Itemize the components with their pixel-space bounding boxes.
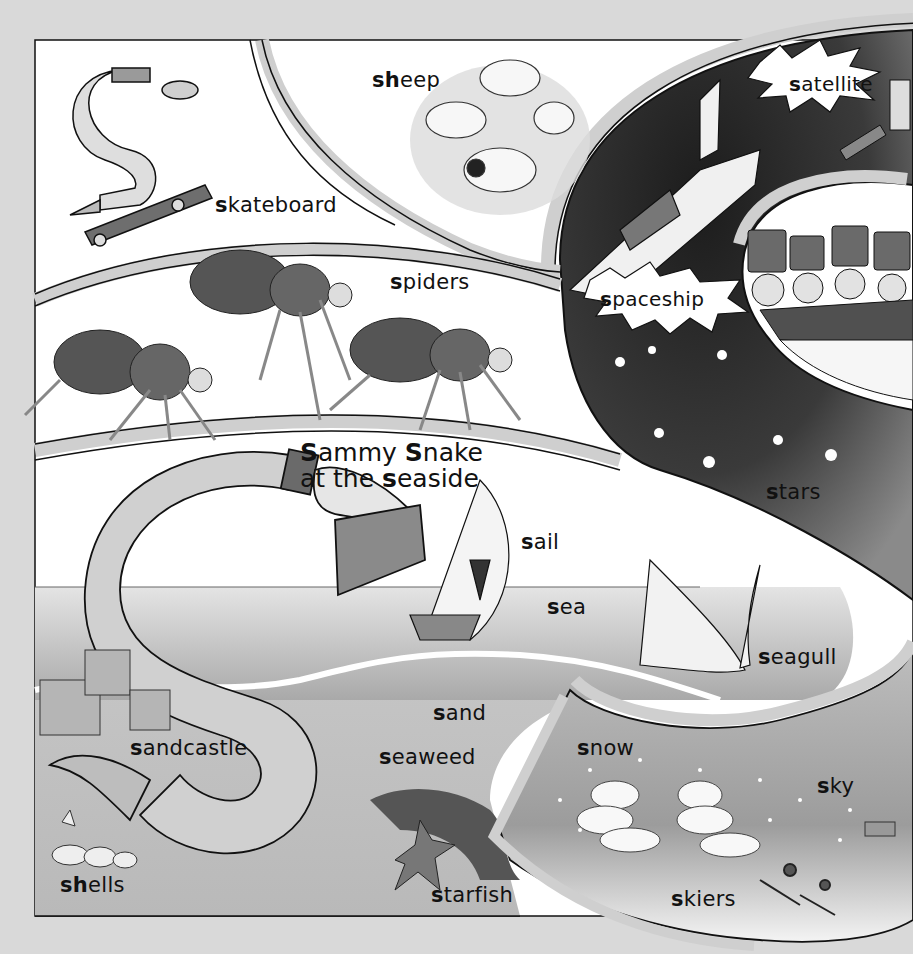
label-stars: stars xyxy=(766,480,821,504)
label-sand: sand xyxy=(433,701,486,725)
label-sheep: sheep xyxy=(372,68,440,92)
label-spaceship: spaceship xyxy=(600,287,704,311)
label-sandcastle: sandcastle xyxy=(130,736,247,760)
title-line-1: Sammy Snake xyxy=(300,440,483,466)
label-seagull: seagull xyxy=(758,645,837,669)
alphabet-page: Sammy Snake at the seaside sheep satelli… xyxy=(0,0,913,954)
page-title: Sammy Snake at the seaside xyxy=(300,440,483,492)
label-sail: sail xyxy=(521,530,559,554)
label-spiders: spiders xyxy=(390,270,470,294)
label-sky: sky xyxy=(817,774,854,798)
label-snow: snow xyxy=(577,736,634,760)
label-skateboard: skateboard xyxy=(215,193,337,217)
label-satellite: satellite xyxy=(789,72,873,96)
label-skiers: skiers xyxy=(671,887,736,911)
label-starfish: starfish xyxy=(431,883,513,907)
title-line-2: at the seaside xyxy=(300,466,483,492)
label-sea: sea xyxy=(547,595,586,619)
label-seaweed: seaweed xyxy=(379,745,476,769)
label-shells: shells xyxy=(60,873,125,897)
cottage xyxy=(865,822,895,836)
